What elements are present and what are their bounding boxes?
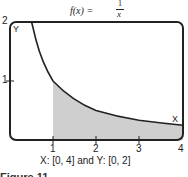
x-tick-label-2: 2	[93, 143, 99, 154]
figure-label: Figure 11	[0, 171, 48, 177]
x-tick-label-4: 4	[178, 143, 184, 154]
shaded-region	[53, 81, 183, 140]
x-tick-label-1: 1	[50, 143, 56, 154]
y-tick-label-1: 1	[2, 74, 8, 85]
y-axis-label: Y	[13, 24, 19, 34]
y-tick-label-2: 2	[2, 15, 8, 26]
x-tick-label-3: 3	[136, 143, 142, 154]
x-axis-label: X	[172, 114, 178, 124]
window-caption: X: [0, 4] and Y: [0, 2]	[40, 155, 130, 166]
